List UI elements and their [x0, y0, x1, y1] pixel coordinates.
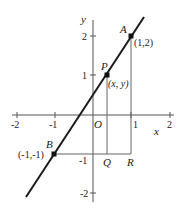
point-b-marker [52, 152, 57, 157]
point-a-coord: (1,2) [134, 37, 153, 49]
y-tick-label: 1 [82, 70, 87, 81]
y-axis-label: y [80, 13, 86, 25]
point-q-label: Q [103, 156, 111, 168]
point-a-label: A [119, 23, 127, 35]
point-p-label: P [100, 60, 108, 72]
y-tick-label: -1 [79, 155, 87, 166]
coordinate-diagram: y x O -2 -1 1 2 2 1 -1 -2 A (1,2) P (x, … [0, 0, 184, 210]
point-r-label: R [126, 156, 134, 168]
point-p-coord: (x, y) [108, 78, 129, 90]
x-tick-label: -1 [49, 119, 57, 130]
point-a-marker [129, 34, 134, 39]
y-tick-label: -2 [80, 188, 88, 199]
origin-label: O [94, 118, 102, 130]
point-p-marker [105, 73, 110, 78]
line-through-a-b [26, 17, 144, 197]
x-tick-label: 1 [133, 119, 138, 130]
point-b-label: B [46, 138, 53, 150]
y-tick-label: 2 [82, 31, 87, 42]
x-tick-label: -2 [11, 119, 19, 130]
x-axis-label: x [153, 125, 159, 137]
y-axis [90, 20, 96, 202]
x-tick-label: 2 [167, 119, 172, 130]
point-b-coord: (-1,-1) [18, 149, 44, 161]
